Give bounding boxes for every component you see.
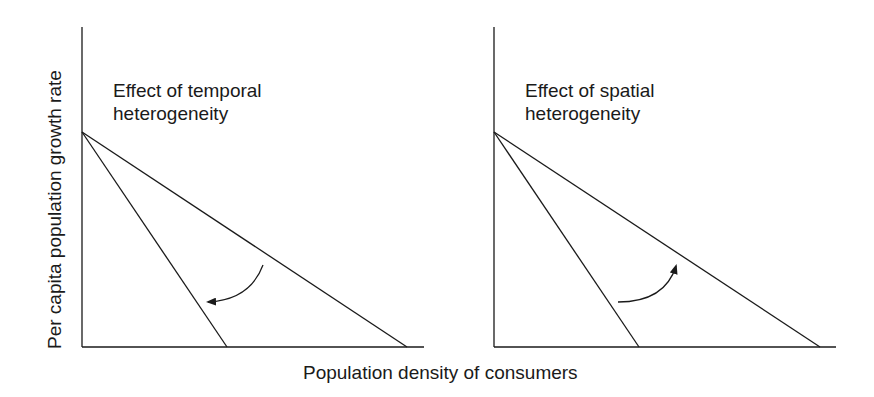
panel-temporal — [82, 27, 424, 347]
steep-line-right — [494, 132, 639, 347]
panel-title-temporal: Effect of temporal heterogeneity — [113, 79, 262, 125]
panel-title-spatial-line1: Effect of spatial — [525, 79, 655, 102]
shallow-line-right — [494, 132, 820, 347]
shallow-line-left — [82, 132, 407, 347]
panel-title-temporal-line1: Effect of temporal — [113, 79, 262, 102]
panel-spatial — [494, 27, 836, 347]
y-axis-label: Per capita population growth rate — [44, 70, 66, 349]
panel-title-spatial-line2: heterogeneity — [525, 102, 655, 125]
panel-title-spatial: Effect of spatial heterogeneity — [525, 79, 655, 125]
arrow-right-icon — [618, 266, 676, 302]
steep-line-left — [82, 132, 227, 347]
arrow-left-icon — [208, 265, 263, 302]
panel-title-temporal-line2: heterogeneity — [113, 102, 262, 125]
diagram-canvas — [0, 0, 874, 397]
x-axis-label: Population density of consumers — [303, 362, 578, 384]
